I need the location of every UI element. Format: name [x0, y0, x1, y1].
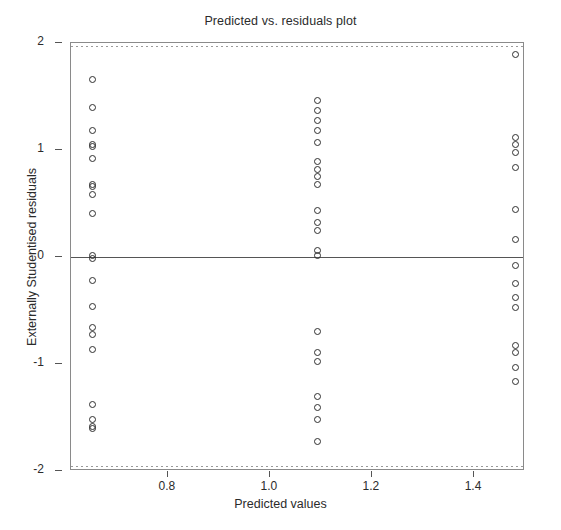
data-point — [314, 117, 321, 124]
scatter-plot-figure: Predicted vs. residuals plot 210-1-2 0.8… — [0, 0, 561, 530]
data-point — [314, 227, 321, 234]
plot-area — [70, 42, 524, 470]
x-tick-mark — [473, 471, 474, 477]
data-point — [89, 346, 96, 353]
chart-title: Predicted vs. residuals plot — [0, 14, 561, 28]
data-point — [512, 294, 519, 301]
data-point — [314, 127, 321, 134]
data-point — [89, 143, 96, 150]
data-point — [314, 358, 321, 365]
data-point — [512, 149, 519, 156]
zero-reference-line — [71, 257, 523, 258]
data-point — [89, 255, 96, 262]
top-dotted-gridline — [71, 46, 523, 47]
data-point — [314, 158, 321, 165]
data-point — [512, 280, 519, 287]
data-point — [314, 139, 321, 146]
y-tick-label: 2 — [20, 34, 44, 48]
data-point — [512, 349, 519, 356]
data-point — [512, 51, 519, 58]
data-point — [89, 210, 96, 217]
data-point — [89, 76, 96, 83]
x-tick-mark — [167, 471, 168, 477]
data-point — [89, 331, 96, 338]
data-point — [89, 183, 96, 190]
data-point — [512, 304, 519, 311]
x-axis-title: Predicted values — [0, 497, 561, 511]
data-point — [314, 219, 321, 226]
data-point — [512, 236, 519, 243]
x-tick-label: 1.4 — [453, 479, 493, 493]
data-point — [314, 404, 321, 411]
bottom-dotted-gridline — [71, 466, 523, 467]
data-point — [512, 134, 519, 141]
data-point — [512, 364, 519, 371]
y-tick-mark — [55, 470, 62, 471]
data-point — [512, 378, 519, 385]
data-point — [89, 191, 96, 198]
y-tick-mark — [55, 256, 62, 257]
data-point — [314, 166, 321, 173]
y-tick-label: -2 — [20, 462, 44, 476]
y-axis-title: Externally Studentised residuals — [25, 127, 39, 387]
y-tick-mark — [55, 42, 62, 43]
data-point — [314, 181, 321, 188]
x-tick-mark — [371, 471, 372, 477]
data-point — [314, 328, 321, 335]
data-point — [314, 207, 321, 214]
data-point — [89, 425, 96, 432]
data-point — [89, 104, 96, 111]
data-point — [512, 164, 519, 171]
data-point — [512, 141, 519, 148]
data-point — [314, 438, 321, 445]
data-point — [314, 97, 321, 104]
y-tick-mark — [55, 363, 62, 364]
x-tick-label: 1.0 — [249, 479, 289, 493]
data-point — [89, 303, 96, 310]
data-point — [314, 349, 321, 356]
data-point — [314, 393, 321, 400]
data-point — [89, 401, 96, 408]
x-tick-label: 0.8 — [147, 479, 187, 493]
data-point — [314, 173, 321, 180]
x-tick-label: 1.2 — [351, 479, 391, 493]
data-point — [89, 277, 96, 284]
data-point — [89, 127, 96, 134]
y-tick-mark — [55, 149, 62, 150]
x-tick-mark — [269, 471, 270, 477]
data-point — [314, 252, 321, 259]
data-point — [512, 206, 519, 213]
data-point — [314, 107, 321, 114]
data-point — [512, 262, 519, 269]
data-point — [314, 416, 321, 423]
data-point — [89, 155, 96, 162]
